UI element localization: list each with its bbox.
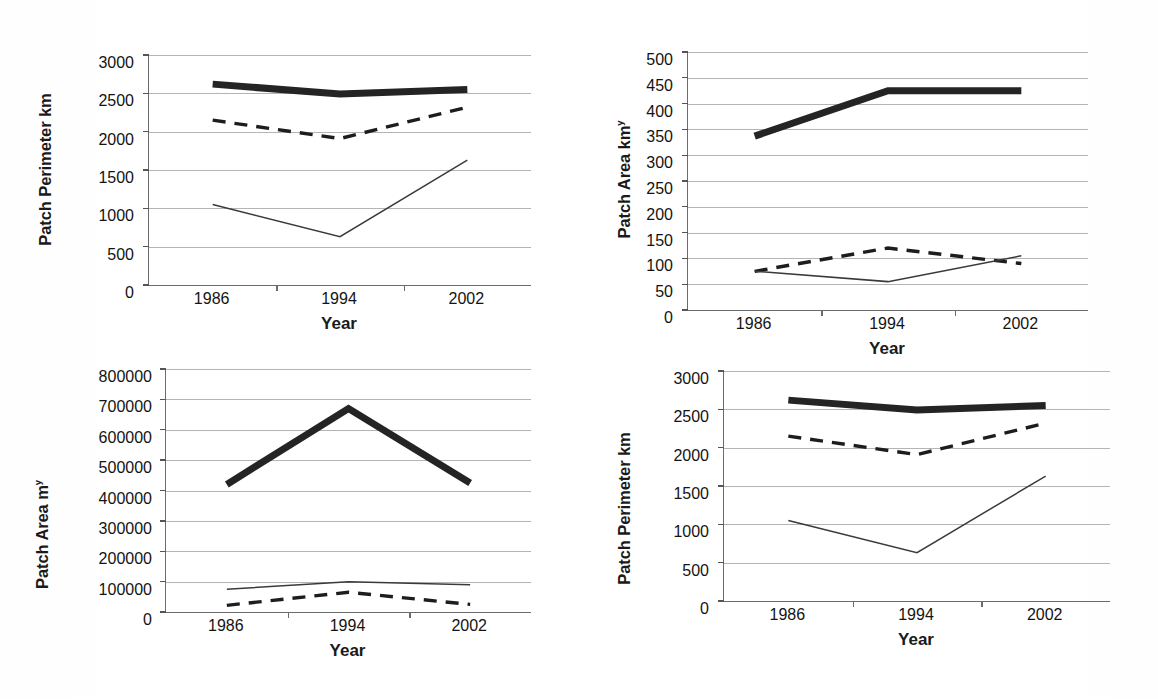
- x-axis-title: Year: [165, 641, 530, 661]
- y-axis-title: Patch Perimeter km: [36, 65, 55, 275]
- plot-area: [165, 369, 531, 613]
- series-line-thick-solid: [755, 91, 1022, 136]
- series-line-thick-solid: [227, 408, 470, 484]
- series-line-thick-solid: [788, 400, 1045, 410]
- y-axis-tick-labels: 300025002000150010005000: [637, 371, 709, 601]
- x-axis-tick-label: 1986: [148, 290, 275, 308]
- x-axis-title: Year: [723, 630, 1109, 650]
- chart-panel-top-left: Patch Perimeter km 300025002000150010005…: [0, 0, 579, 349]
- series-line-thin-solid: [227, 582, 470, 590]
- plot-area: [148, 55, 531, 286]
- series-line-thin-solid: [788, 476, 1045, 553]
- data-series-group: [166, 369, 531, 612]
- multi-panel-line-chart-figure: Patch Perimeter km 300025002000150010005…: [0, 0, 1158, 699]
- chart-panel-bottom-left: Patch Area my 80000070000060000050000040…: [0, 349, 579, 699]
- x-axis-tick-label: 1986: [723, 606, 852, 624]
- plot-area: [687, 52, 1088, 311]
- x-axis-tick-label: 1994: [820, 315, 953, 333]
- x-axis-tick-label: 1986: [687, 315, 820, 333]
- x-axis-tick-label: 1994: [287, 617, 409, 635]
- x-axis-tick-label: 2002: [408, 617, 530, 635]
- x-axis-tick-labels: 198619942002: [148, 290, 530, 308]
- y-axis-title: Patch Perimeter km: [615, 404, 634, 614]
- chart-panel-top-right: Patch Area kmy 5004504003503002502001501…: [579, 0, 1158, 349]
- series-line-thick-solid: [213, 84, 468, 94]
- y-axis-tick-labels: 8000007000006000005000004000003000002000…: [42, 369, 152, 612]
- x-axis-tick-label: 2002: [980, 606, 1109, 624]
- series-line-dashed: [788, 423, 1045, 454]
- series-line-dashed: [755, 248, 1022, 271]
- series-line-thin-solid: [213, 160, 468, 237]
- data-series-group: [149, 55, 531, 285]
- y-axis-tick-labels: 500450400350300250200150100500: [621, 52, 673, 310]
- x-axis-tick-label: 1994: [275, 290, 402, 308]
- plot-area: [723, 371, 1110, 602]
- x-axis-tick-labels: 198619942002: [165, 617, 530, 635]
- x-axis-tick-label: 1986: [165, 617, 287, 635]
- x-axis-tick-label: 1994: [852, 606, 981, 624]
- chart-panel-bottom-right: Patch Perimeter km 300025002000150010005…: [579, 349, 1158, 699]
- x-axis-tick-label: 2002: [403, 290, 530, 308]
- series-line-dashed: [213, 107, 468, 138]
- y-axis-tick-labels: 300025002000150010005000: [62, 55, 134, 285]
- x-axis-tick-labels: 198619942002: [687, 315, 1087, 333]
- x-axis-title: Year: [148, 314, 530, 334]
- series-line-dashed: [227, 592, 470, 605]
- x-axis-tick-labels: 198619942002: [723, 606, 1109, 624]
- x-axis-tick-label: 2002: [954, 315, 1087, 333]
- data-series-group: [724, 371, 1110, 601]
- data-series-group: [688, 52, 1088, 310]
